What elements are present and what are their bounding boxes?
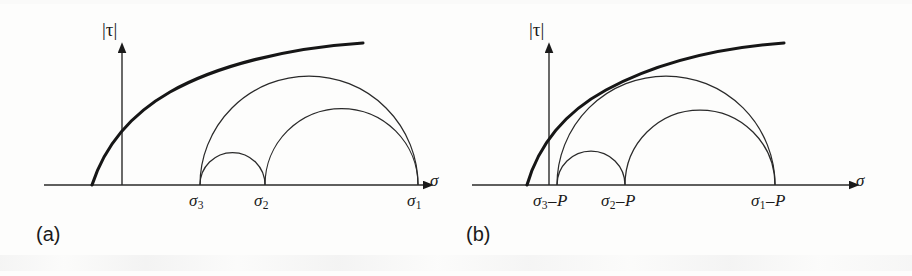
y-axis-label-a: |τ|: [102, 20, 117, 39]
mohr-circle-sigma3-sigma2-a: [200, 153, 265, 185]
panel-a-plot: [0, 0, 456, 276]
mohr-circle-sigma3P-sigma1P-b: [557, 76, 775, 185]
tick-sub: 1: [415, 199, 421, 211]
mohr-circle-sigma2-sigma1-a: [265, 109, 418, 185]
tick-minus: –: [765, 191, 775, 210]
tick-label-sigma1-a: σ1: [407, 192, 421, 212]
panel-b: |τ| σ σ3–P σ2–P σ1–P (b): [456, 0, 912, 276]
tick-label-sigma2-a: σ2: [254, 192, 268, 212]
tick-suffix: P: [775, 191, 785, 210]
mohr-circle-sigma3-sigma1-a: [200, 76, 418, 185]
tick-label-sigma1-minus-p-b: σ1–P: [751, 192, 785, 212]
figure-root: |τ| σ σ3 σ2 σ1 (a): [0, 0, 912, 276]
x-axis-label-a: σ: [430, 172, 438, 189]
tick-sub: 3: [197, 199, 203, 211]
panel-a: |τ| σ σ3 σ2 σ1 (a): [0, 0, 456, 276]
panel-b-plot: [456, 0, 912, 276]
tick-label-sigma2-minus-p-b: σ2–P: [601, 192, 635, 212]
tick-sub: 2: [262, 199, 268, 211]
failure-envelope-a: [92, 43, 363, 185]
mohr-circle-sigma3P-sigma2P-b: [557, 151, 625, 185]
tick-label-sigma3-minus-p-b: σ3–P: [533, 192, 567, 212]
panel-caption-b: (b): [466, 224, 490, 244]
failure-envelope-b: [527, 43, 784, 185]
tick-label-sigma3-a: σ3: [189, 192, 203, 212]
mohr-circle-sigma2P-sigma1P-b: [625, 110, 775, 185]
panel-caption-a: (a): [36, 224, 60, 244]
x-axis-label-b: σ: [856, 172, 864, 189]
tick-minus: –: [615, 191, 625, 210]
tick-minus: –: [547, 191, 557, 210]
tick-suffix: P: [557, 191, 567, 210]
y-axis-label-b: |τ|: [529, 20, 544, 39]
tick-suffix: P: [625, 191, 635, 210]
